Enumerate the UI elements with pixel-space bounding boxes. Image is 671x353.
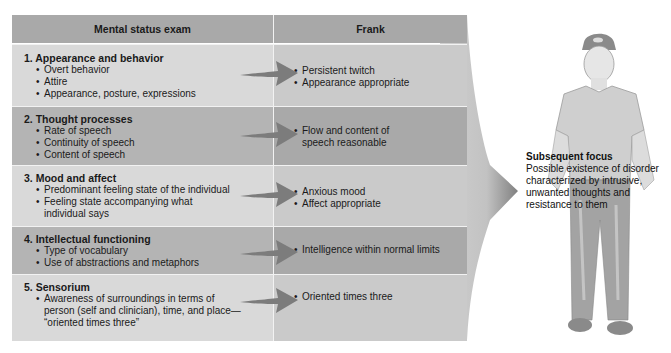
section-title: 2. Thought processes <box>24 113 133 125</box>
table-header-row: Mental status exam Frank <box>12 15 467 43</box>
exam-item: Type of vocabulary <box>36 245 199 257</box>
focus-line: Possible existence of disorder <box>526 163 659 175</box>
exam-item: Continuity of speech <box>36 137 135 149</box>
finding-item: Appearance appropriate <box>294 77 409 89</box>
arrow-right-icon <box>240 61 298 87</box>
finding-item: Anxious mood <box>294 186 381 198</box>
header-mental-status-exam: Mental status exam <box>12 15 274 43</box>
arrow-right-icon <box>240 182 298 208</box>
exam-item: Rate of speech <box>36 125 135 137</box>
section-title: 5. Sensorium <box>24 281 90 293</box>
arrow-right-icon <box>240 288 298 314</box>
finding-item: Flow and content of <box>294 125 389 137</box>
section-title: 3. Mood and affect <box>24 172 116 184</box>
finding-item-continued: speech reasonable <box>294 137 389 149</box>
exam-item: Use of abstractions and metaphors <box>36 257 199 269</box>
focus-line: characterized by intrusive, <box>526 175 659 187</box>
exam-item-continued: “oriented times three” <box>36 317 241 329</box>
exam-item: Awareness of surroundings in terms of <box>36 293 241 305</box>
section-title: 1. Appearance and behavior <box>24 52 164 64</box>
header-frank: Frank <box>274 15 467 43</box>
exam-item: Predominant feeling state of the individ… <box>36 184 230 196</box>
finding-item: Affect appropriate <box>294 198 381 210</box>
exam-item: Attire <box>36 76 196 88</box>
subsequent-focus-note: Subsequent focus Possible existence of d… <box>526 151 659 211</box>
exam-item-continued: person (self and clinician), time, and p… <box>36 305 241 317</box>
exam-item-continued: individual says <box>36 208 230 220</box>
finding-item: Oriented times three <box>294 291 393 303</box>
focus-line: unwanted thoughts and <box>526 187 659 199</box>
finding-item: Intelligence within normal limits <box>294 244 440 256</box>
arrow-right-icon <box>240 122 298 148</box>
subsequent-focus-title: Subsequent focus <box>526 151 659 163</box>
arrow-right-icon <box>240 240 298 266</box>
exam-item: Content of speech <box>36 149 135 161</box>
exam-item: Overt behavior <box>36 64 196 76</box>
finding-item: Persistent twitch <box>294 65 409 77</box>
focus-line: resistance to them <box>526 199 659 211</box>
exam-item: Appearance, posture, expressions <box>36 88 196 100</box>
section-title: 4. Intellectual functioning <box>24 233 151 245</box>
exam-item: Feeling state accompanying what <box>36 196 230 208</box>
